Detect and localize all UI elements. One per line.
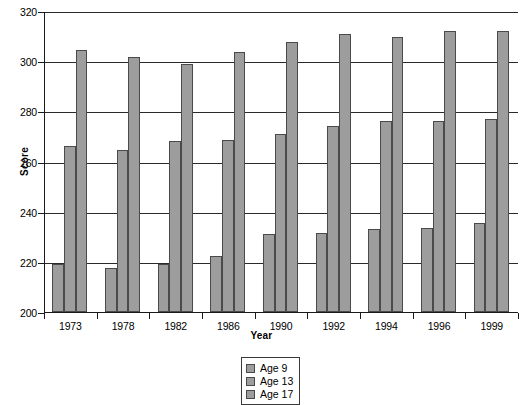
bar-age-9-1986 [210,256,222,312]
bars-layer [45,12,518,312]
x-axis-title: Year [0,330,523,341]
x-tick-mark [465,313,466,319]
legend-item[interactable]: Age 17 [246,388,293,400]
bar-age-9-1990 [263,234,275,312]
x-tick-mark [97,313,98,319]
legend-swatch-icon [246,377,255,386]
bar-group [256,12,309,312]
bar-age-13-1973 [64,146,76,312]
y-tick-label-320: 320 [4,6,37,18]
legend-item[interactable]: Age 13 [246,375,293,387]
legend-label: Age 13 [260,376,293,387]
y-tick-label-220: 220 [4,257,37,269]
bar-group [414,12,467,312]
bar-age-9-1978 [105,268,117,312]
bar-age-17-1994 [392,37,404,312]
bar-group [150,12,203,312]
legend-swatch-icon [246,390,255,399]
y-axis-title: Score [19,132,30,192]
bar-group [98,12,151,312]
bar-age-17-1996 [444,31,456,312]
bar-age-13-1990 [275,134,287,312]
bar-age-9-1992 [316,233,328,312]
y-tick-label-280: 280 [4,106,37,118]
x-tick-mark [307,313,308,319]
legend: Age 9Age 13Age 17 [241,357,300,405]
bar-age-17-1990 [286,42,298,312]
x-tick-mark [44,313,45,319]
bar-age-17-1992 [339,34,351,312]
x-tick-mark [202,313,203,319]
bar-age-17-1973 [76,50,88,312]
legend-item[interactable]: Age 9 [246,362,293,374]
bar-age-13-1994 [380,121,392,312]
x-tick-mark [518,313,519,319]
y-tick-label-240: 240 [4,207,37,219]
bar-age-13-1982 [169,141,181,312]
bar-age-9-1973 [52,264,64,312]
bar-age-9-1982 [158,264,170,312]
bar-age-17-1999 [497,31,509,312]
bar-age-9-1999 [474,223,486,312]
bar-age-13-1999 [485,119,497,312]
bar-age-17-1982 [181,64,193,312]
legend-label: Age 9 [260,363,287,374]
bar-age-13-1992 [327,126,339,312]
bar-group [45,12,98,312]
bar-age-17-1978 [128,57,140,312]
x-tick-mark [360,313,361,319]
bar-group [308,12,361,312]
bar-age-13-1996 [433,121,445,312]
y-tick-label-300: 300 [4,56,37,68]
bar-group [361,12,414,312]
y-tick-label-200: 200 [4,307,37,319]
legend-label: Age 17 [260,389,293,400]
x-tick-mark [413,313,414,319]
plot-area [44,12,518,313]
bar-age-9-1994 [368,229,380,312]
bar-group [203,12,256,312]
legend-swatch-icon [246,364,255,373]
bar-age-9-1996 [421,228,433,312]
bar-age-13-1986 [222,140,234,312]
x-tick-mark [255,313,256,319]
bar-group [466,12,519,312]
bar-age-17-1986 [234,52,246,312]
bar-age-13-1978 [117,150,129,312]
x-tick-mark [149,313,150,319]
